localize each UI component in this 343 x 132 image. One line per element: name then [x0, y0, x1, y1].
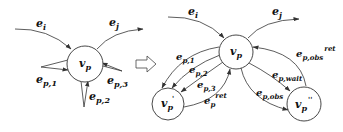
label-e-j-right: ej [272, 5, 282, 20]
label-e-i-left: ei [36, 17, 46, 32]
left-graph: vp ei ej ep,1 ep,2 ep,3 [15, 16, 143, 107]
self-loop-e-p2 [81, 81, 88, 107]
label-e-j-left: ej [109, 16, 119, 31]
label-e-p3-left: ep,3 [107, 74, 128, 89]
self-loop-e-p3 [102, 63, 122, 71]
edge-e-j-left [97, 29, 143, 49]
label-e-p-wait: ep,wait [272, 69, 303, 83]
label-e-p-obs-ret: ep,obsret [296, 44, 336, 62]
label-e-p2-right: ep,2 [189, 64, 208, 78]
edge-e-i-right [168, 17, 224, 38]
label-e-p-obs: ep,obs [256, 87, 283, 101]
edge-e-j-right [248, 19, 299, 38]
label-e-p-ret: epret [204, 91, 227, 109]
right-graph: vp vp' vp'' ei ej ep,1 ep,2 ep,3 epret e… [152, 5, 336, 121]
self-loop-e-p1 [41, 60, 68, 70]
label-e-p2-left: ep,2 [89, 90, 110, 105]
label-e-p3-right: ep,3 [197, 79, 216, 93]
label-e-p1-right: ep,1 [176, 51, 195, 65]
transform-arrow-icon [136, 56, 156, 72]
label-e-i-right: ei [188, 5, 198, 20]
label-e-p1-left: ep,1 [36, 73, 57, 88]
graph-transformation-diagram: vp ei ej ep,1 ep,2 ep,3 vp vp' vp'' ei e… [0, 0, 343, 132]
